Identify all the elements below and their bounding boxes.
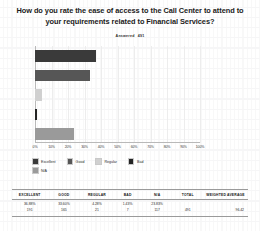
cell-count: 165 — [47, 208, 80, 213]
table-header-excellent: EXCELLENT — [12, 190, 47, 200]
bar-slot-bad — [35, 109, 200, 121]
legend-label: Bad — [137, 160, 143, 164]
x-tick-40: 40% — [98, 145, 105, 149]
table-header-n-a: N/A — [142, 190, 173, 200]
bar-na — [35, 128, 74, 140]
legend-label: N/A — [41, 169, 47, 173]
x-tick-80: 80% — [164, 145, 171, 149]
table-header-row: EXCELLENTGOODREGULARBADN/ATOTALWEIGHTED … — [12, 190, 248, 200]
x-tick-100: 100% — [196, 145, 205, 149]
table-header-total: TOTAL — [172, 190, 203, 200]
results-table-container: EXCELLENTGOODREGULARBADN/ATOTALWEIGHTED … — [12, 189, 248, 217]
answered-summary: Answered491 — [14, 34, 246, 38]
x-tick-90: 90% — [180, 145, 187, 149]
legend-swatch-icon — [95, 158, 102, 165]
bar-regular — [35, 89, 42, 101]
x-axis-tick-labels: 0%10%20%30%40%50%60%70%80%90%100% — [35, 145, 200, 155]
table-cell-na: 23.83%117 — [142, 200, 173, 217]
legend-swatch-icon — [128, 158, 135, 165]
table-row: 36.88%19133.60%1654.28%211.43%723.83%117… — [12, 200, 248, 217]
x-tick-10: 10% — [48, 145, 55, 149]
bar-slot-na — [35, 128, 200, 140]
x-tick-70: 70% — [147, 145, 154, 149]
cell-count: 7 — [113, 208, 141, 213]
legend-swatch-icon — [32, 167, 39, 174]
table-cell-good: 33.60%165 — [47, 200, 80, 217]
bar-bad — [35, 109, 37, 121]
cell-count: 191 — [12, 208, 47, 213]
results-table: EXCELLENTGOODREGULARBADN/ATOTALWEIGHTED … — [12, 189, 248, 217]
x-tick-30: 30% — [81, 145, 88, 149]
legend-item-regular[interactable]: Regular — [95, 158, 117, 165]
table-header-regular: REGULAR — [80, 190, 113, 200]
table-header-good: GOOD — [47, 190, 80, 200]
table-header-bad: BAD — [113, 190, 141, 200]
chart-legend: ExcellentGoodRegularBadN/A — [32, 158, 232, 176]
table-body: 36.88%19133.60%1654.28%211.43%723.83%117… — [12, 200, 248, 217]
cell-count: 117 — [142, 208, 173, 213]
legend-label: Excellent — [41, 160, 56, 164]
answered-value: 491 — [138, 34, 145, 38]
answered-label: Answered — [116, 34, 135, 38]
legend-item-bad[interactable]: Bad — [128, 158, 143, 165]
x-tick-20: 20% — [65, 145, 72, 149]
legend-item-excellent[interactable]: Excellent — [32, 158, 56, 165]
bar-slot-excellent — [35, 50, 200, 62]
page-title: How do you rate the ease of access to th… — [14, 6, 246, 27]
x-tick-60: 60% — [131, 145, 138, 149]
table-cell-weighted-average: 96.42 — [203, 200, 248, 217]
cell-count: 21 — [80, 208, 113, 213]
survey-result-page: How do you rate the ease of access to th… — [0, 0, 260, 231]
table-cell-excellent: 36.88%191 — [12, 200, 47, 217]
bar-excellent — [35, 50, 96, 62]
bar-chart: 0%10%20%30%40%50%60%70%80%90%100% — [0, 44, 260, 144]
cell-weighted-average-value: 96.42 — [203, 208, 248, 213]
legend-swatch-icon — [32, 158, 39, 165]
bar-slot-regular — [35, 89, 200, 101]
legend-swatch-icon — [67, 158, 74, 165]
table-cell-regular: 4.28%21 — [80, 200, 113, 217]
x-tick-50: 50% — [114, 145, 121, 149]
gridline-100 — [200, 46, 201, 143]
table-cell-bad: 1.43%7 — [113, 200, 141, 217]
legend-item-good[interactable]: Good — [67, 158, 85, 165]
cell-total-value: 491 — [172, 208, 203, 213]
table-cell-total: 491 — [172, 200, 203, 217]
bar-good — [35, 70, 90, 82]
plot-area — [35, 46, 200, 143]
title-block: How do you rate the ease of access to th… — [0, 0, 260, 38]
legend-label: Regular — [104, 160, 117, 164]
legend-item-na[interactable]: N/A — [32, 167, 47, 174]
legend-label: Good — [76, 160, 85, 164]
x-tick-0: 0% — [33, 145, 38, 149]
bar-slot-good — [35, 70, 200, 82]
x-axis-line — [35, 142, 200, 143]
table-header-weighted-average: WEIGHTED AVERAGE — [203, 190, 248, 200]
